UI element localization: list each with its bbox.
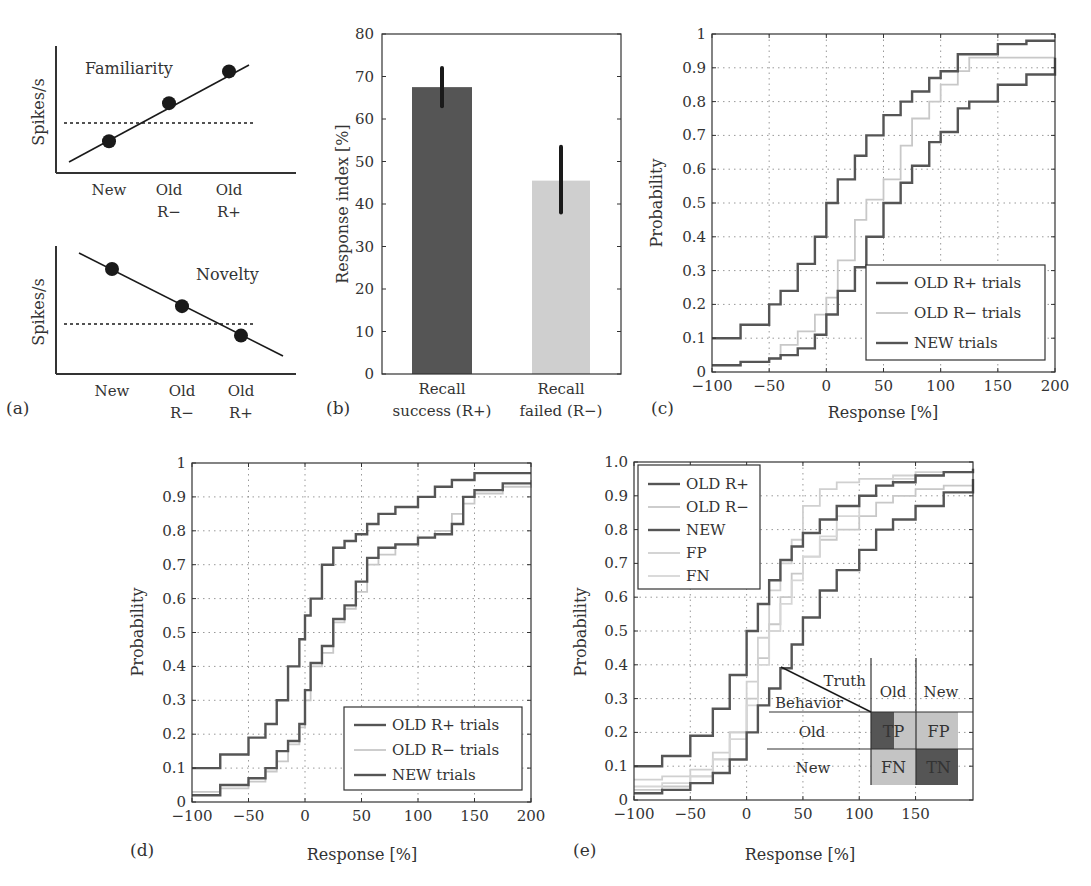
y-tick-label: 0.9 (604, 487, 628, 505)
y-tick-label: 0.6 (604, 588, 628, 606)
y-tick-label: 0.2 (604, 723, 628, 741)
y-tick-label: 0.3 (162, 691, 186, 709)
legend-entry: OLD R+ trials (914, 274, 1021, 292)
y-tick-label: 0 (696, 363, 706, 381)
data-point (102, 134, 116, 148)
y-tick-label: 0.3 (604, 690, 628, 708)
x-tick-label: Old (156, 181, 183, 199)
y-tick-label: 60 (355, 110, 374, 128)
y-tick-label: 50 (355, 153, 374, 171)
y-tick-label: 70 (355, 68, 374, 86)
x-tick-label: 100 (845, 805, 874, 823)
x-tick-label: −50 (674, 805, 706, 823)
y-tick-label: 0.4 (604, 656, 628, 674)
y-tick-label: 0.1 (682, 329, 706, 347)
y-tick-label: 0.5 (682, 194, 706, 212)
y-tick-label: 10 (355, 323, 374, 341)
y-tick-label: 0.2 (162, 725, 186, 743)
y-tick-label: 0.6 (162, 590, 186, 608)
x-tick-label: 50 (352, 807, 371, 825)
panel-b-bar-chart: Response index [%] Recallsuccess (R+)Rec… (333, 25, 621, 420)
x-tick-label: 100 (926, 377, 955, 395)
x-tick-label: 0 (742, 805, 752, 823)
y-tick-label: 0.4 (682, 228, 706, 246)
x-tick-label: 150 (984, 377, 1013, 395)
panel-a-familiarity: Familiarity Spikes/s NewOldR−OldR+ (29, 46, 296, 221)
row-header: New (796, 759, 831, 777)
y-tick-label: 30 (355, 238, 374, 256)
y-tick-label: 0.9 (682, 59, 706, 77)
plot-area: −100−5005010015020000.10.20.30.40.50.60.… (162, 454, 545, 825)
y-tick-label: 0.9 (162, 488, 186, 506)
panel-label-e: (e) (573, 840, 596, 860)
col-header: Old (880, 683, 907, 701)
x-tick-label: failed (R−) (520, 402, 603, 420)
legend-entry: NEW trials (392, 766, 476, 784)
truth-label: Truth (823, 672, 866, 690)
legend: OLD R+OLD R−NEWFPFN (638, 465, 760, 589)
x-axis-label: Response [%] (745, 845, 855, 864)
panel-label-a: (a) (6, 398, 29, 418)
x-tick-label: 50 (793, 805, 812, 823)
x-tick-label: 50 (874, 377, 893, 395)
x-axis-label: Response [%] (307, 845, 417, 864)
panel-label-d: (d) (130, 840, 154, 860)
data-point (162, 96, 176, 110)
chart-title: Novelty (196, 265, 259, 284)
x-tick-label: R− (170, 404, 194, 422)
y-tick-label: 0.2 (682, 295, 706, 313)
x-tick-label: 100 (404, 807, 433, 825)
y-tick-label: 0 (618, 791, 628, 809)
panel-c-cdf: Probability Response [%] −100−5005010015… (647, 25, 1069, 422)
legend-entry: OLD R− trials (914, 304, 1021, 322)
cell-label: FP (928, 722, 950, 741)
legend-entry: NEW trials (914, 334, 998, 352)
x-tick-labels: NewOldR−OldR+ (92, 181, 243, 221)
y-tick-label: 0.8 (162, 522, 186, 540)
x-tick-label: 150 (460, 807, 489, 825)
x-tick-label: −50 (753, 377, 785, 395)
y-axis-label: Probability (647, 159, 666, 248)
cell-label: TN (926, 758, 951, 777)
x-tick-label: −50 (233, 807, 265, 825)
panel-label-c: (c) (651, 398, 674, 418)
row-header: Old (799, 723, 826, 741)
legend-entry: OLD R− trials (392, 741, 499, 759)
y-tick-label: 0 (176, 793, 186, 811)
plot-area: −100−5005010015020000.10.20.30.40.50.60.… (682, 25, 1069, 395)
confusion-matrix-inset: TPFPFNTNTruthBehaviorOldNewOldNew (767, 658, 973, 785)
x-tick-label: 0 (822, 377, 832, 395)
panel-label-b: (b) (326, 398, 350, 418)
legend-entry: NEW (686, 521, 726, 539)
y-tick-label: 0.3 (682, 262, 706, 280)
x-tick-label: 200 (517, 807, 546, 825)
x-tick-label: R+ (229, 404, 253, 422)
x-tick-label: New (95, 382, 130, 400)
y-tick-label: 0.7 (604, 554, 628, 572)
plot-area: Recallsuccess (R+)Recallfailed (R−)01020… (355, 25, 621, 420)
x-tick-label: Old (169, 382, 196, 400)
y-tick-label: 0.5 (162, 624, 186, 642)
panel-a-novelty: Novelty Spikes/s NewOldR−OldR+ (29, 246, 296, 422)
y-tick-label: 0.8 (604, 521, 628, 539)
data-point (234, 329, 248, 343)
y-tick-label: 20 (355, 280, 374, 298)
data-point (222, 64, 236, 78)
x-tick-label: Old (228, 382, 255, 400)
x-tick-label: 0 (300, 807, 310, 825)
figure: (a) (b) (c) (d) (e) Familiarity Spikes/s… (0, 0, 1091, 886)
plot-area (56, 246, 296, 374)
data-point (175, 299, 189, 313)
legend-entry: OLD R+ (686, 475, 749, 493)
y-tick-label: 0.7 (682, 126, 706, 144)
legend: OLD R+ trialsOLD R− trialsNEW trials (344, 707, 522, 790)
x-tick-label: 200 (1041, 377, 1070, 395)
legend: OLD R+ trialsOLD R− trialsNEW trials (866, 265, 1045, 360)
y-tick-label: 0.1 (162, 759, 186, 777)
panel-e-cdf: Probability Response [%] −100−5005010015… (571, 453, 973, 864)
x-tick-label: Recall (537, 380, 584, 398)
y-axis-label: Spikes/s (29, 78, 48, 145)
y-tick-label: 0.4 (162, 657, 186, 675)
legend-entry: OLD R+ trials (392, 716, 499, 734)
x-tick-label: Old (216, 181, 243, 199)
